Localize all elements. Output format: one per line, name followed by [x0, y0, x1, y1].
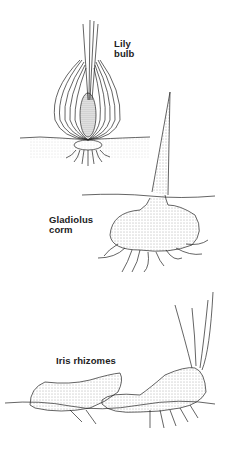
- illustration: [0, 0, 232, 449]
- label-line1: Iris rhizomes: [56, 356, 116, 366]
- iris-rhizomes-label: Iris rhizomes: [56, 356, 116, 366]
- label-line2: bulb: [114, 49, 134, 59]
- gladiolus-corm-drawing: [82, 92, 215, 272]
- lily-bulb-label: Lily bulb: [114, 39, 134, 59]
- gladiolus-corm-label: Gladiolus corm: [49, 215, 93, 235]
- label-line2: corm: [49, 225, 93, 235]
